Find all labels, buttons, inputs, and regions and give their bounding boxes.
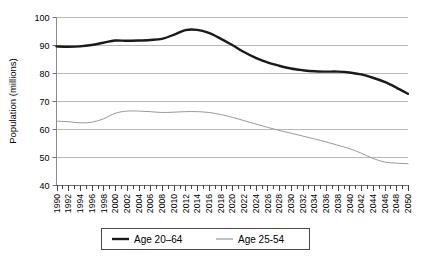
- x-tick-label: 2026: [263, 194, 273, 213]
- chart-container: 405060708090100 199019921994199619982000…: [0, 0, 424, 258]
- legend-label-age-25-54: Age 25-54: [238, 234, 285, 245]
- x-tick-label: 2050: [403, 194, 413, 213]
- x-tick-label: 2014: [192, 194, 202, 213]
- x-tick-label: 2030: [286, 194, 296, 213]
- y-axis-label: Population (millions): [7, 58, 18, 144]
- x-tick-label: 2018: [216, 194, 226, 213]
- x-tick-label: 2034: [309, 194, 319, 213]
- y-tick-label: 40: [39, 181, 49, 191]
- x-tick-label: 1998: [99, 194, 109, 213]
- x-tick-label: 2012: [181, 194, 191, 213]
- x-tick-label: 2010: [169, 194, 179, 213]
- y-tick-label: 60: [39, 125, 49, 135]
- x-tick-label: 2022: [239, 194, 249, 213]
- x-tick-label: 2002: [122, 194, 132, 213]
- x-axis-tick-labels: 1990199219941996199820002002200420062008…: [52, 194, 414, 213]
- population-projection-line-chart: 405060708090100 199019921994199619982000…: [0, 0, 424, 258]
- x-tick-label: 1990: [52, 194, 62, 213]
- x-tick-label: 2016: [204, 194, 214, 213]
- y-tick-label: 70: [39, 97, 49, 107]
- x-tick-label: 2000: [110, 194, 120, 213]
- x-tick-label: 2006: [145, 194, 155, 213]
- x-tick-label: 2036: [321, 194, 331, 213]
- chart-legend: Age 20–64 Age 25-54: [102, 229, 310, 250]
- x-tick-label: 2048: [391, 194, 401, 213]
- x-tick-label: 2008: [157, 194, 167, 213]
- x-tick-label: 1994: [75, 194, 85, 213]
- x-tick-label: 1992: [63, 194, 73, 213]
- x-tick-label: 2038: [333, 194, 343, 213]
- y-tick-label: 100: [34, 13, 49, 23]
- legend-label-age-20-64: Age 20–64: [134, 234, 183, 245]
- x-tick-label: 2042: [356, 194, 366, 213]
- x-tick-label: 2024: [251, 194, 261, 213]
- x-tick-label: 2040: [345, 194, 355, 213]
- x-tick-label: 2044: [368, 194, 378, 213]
- x-tick-label: 2020: [227, 194, 237, 213]
- x-tick-label: 2004: [134, 194, 144, 213]
- y-tick-label: 80: [39, 69, 49, 79]
- x-tick-label: 1996: [87, 194, 97, 213]
- x-tick-label: 2032: [298, 194, 308, 213]
- y-tick-label: 90: [39, 41, 49, 51]
- x-tick-label: 2028: [274, 194, 284, 213]
- y-tick-label: 50: [39, 153, 49, 163]
- x-tick-label: 2046: [380, 194, 390, 213]
